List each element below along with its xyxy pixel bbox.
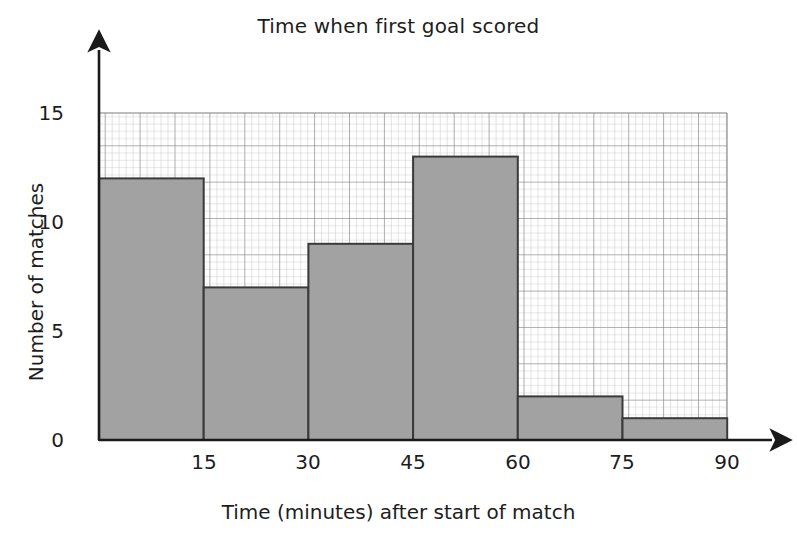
plot-area bbox=[0, 0, 797, 539]
bar-0-15 bbox=[99, 178, 204, 440]
bar-45-60 bbox=[413, 157, 518, 440]
chart-figure: Time when first goal scored Number of ma… bbox=[0, 0, 797, 539]
bar-60-75 bbox=[518, 396, 623, 440]
bar-30-45 bbox=[308, 244, 413, 440]
bar-15-30 bbox=[204, 287, 309, 440]
bar-75-90 bbox=[623, 418, 728, 440]
